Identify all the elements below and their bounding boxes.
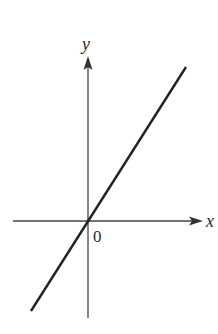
- origin-label: 0: [93, 227, 102, 246]
- plotted-line: [31, 67, 186, 311]
- x-axis-label: x: [205, 211, 214, 231]
- coordinate-graph: y x 0: [0, 0, 218, 334]
- y-axis-label: y: [80, 34, 90, 54]
